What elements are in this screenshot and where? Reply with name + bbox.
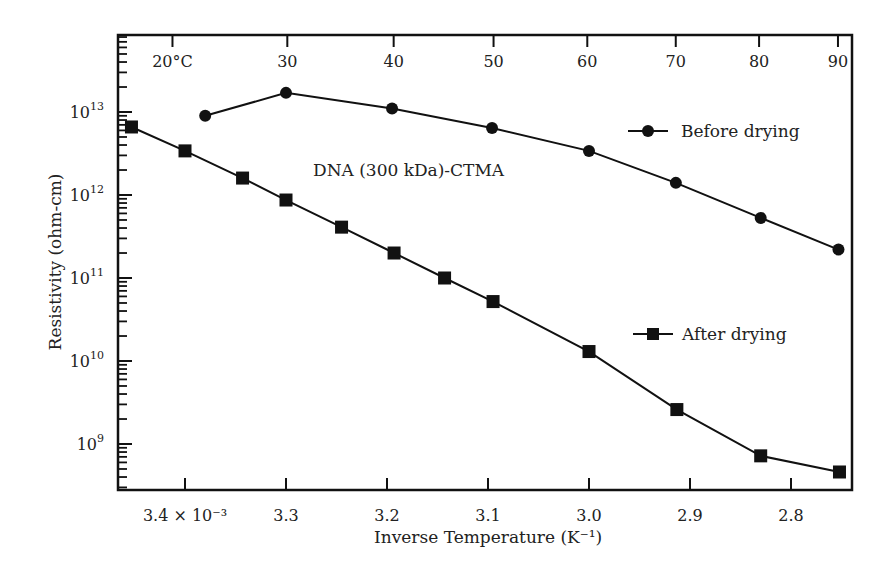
data-point-square bbox=[179, 144, 192, 157]
data-point-circle bbox=[832, 244, 844, 256]
legend-label-before: Before drying bbox=[681, 121, 800, 141]
data-point-circle bbox=[386, 103, 398, 115]
x-tick-label: 3.0 bbox=[576, 506, 601, 525]
data-point-circle bbox=[583, 145, 595, 157]
data-point-square bbox=[236, 172, 249, 185]
data-point-circle bbox=[670, 177, 682, 189]
y-tick-label: 1013 bbox=[70, 100, 104, 122]
data-point-square bbox=[438, 272, 451, 285]
x-tick-label: 3.1 bbox=[475, 506, 500, 525]
top-tick-label: 50 bbox=[483, 52, 503, 71]
y-tick-label: 1010 bbox=[70, 349, 104, 371]
x-tick-label: 2.8 bbox=[778, 506, 803, 525]
data-point-square bbox=[388, 247, 401, 260]
data-point-square bbox=[335, 221, 348, 234]
x-tick-label: 3.2 bbox=[374, 506, 399, 525]
data-point-square bbox=[280, 194, 293, 207]
plot-axes: 3.4 × 10⁻³3.33.23.13.02.92.820°C30405060… bbox=[70, 35, 852, 525]
top-tick-label: 90 bbox=[828, 52, 848, 71]
legend-label-after: After drying bbox=[681, 324, 787, 344]
x-axis-label: Inverse Temperature (K⁻¹) bbox=[374, 527, 602, 547]
x-tick-label: 2.9 bbox=[677, 506, 702, 525]
top-tick-label: 20°C bbox=[152, 52, 193, 71]
top-tick-label: 80 bbox=[749, 52, 769, 71]
data-point-circle bbox=[280, 87, 292, 99]
data-point-square bbox=[833, 465, 846, 478]
y-tick-label: 109 bbox=[77, 432, 104, 454]
data-point-square bbox=[754, 449, 767, 462]
chart-annotation: DNA (300 kDa)-CTMA bbox=[313, 160, 505, 180]
square-marker-icon bbox=[647, 328, 659, 340]
data-point-square bbox=[670, 403, 683, 416]
series-line bbox=[205, 93, 838, 250]
y-tick-label: 1012 bbox=[70, 183, 104, 205]
y-tick-label: 1011 bbox=[70, 266, 104, 288]
top-tick-label: 30 bbox=[277, 52, 297, 71]
legend-before-drying: Before drying bbox=[628, 121, 800, 141]
x-tick-label: 3.4 × 10⁻³ bbox=[143, 506, 227, 525]
top-tick-label: 70 bbox=[666, 52, 686, 71]
x-tick-label: 3.3 bbox=[273, 506, 298, 525]
top-tick-label: 60 bbox=[577, 52, 597, 71]
legend-after-drying: After drying bbox=[633, 324, 787, 344]
data-point-square bbox=[487, 295, 500, 308]
data-point-square bbox=[125, 120, 138, 133]
data-point-circle bbox=[755, 212, 767, 224]
data-point-circle bbox=[486, 122, 498, 134]
resistivity-chart: 3.4 × 10⁻³3.33.23.13.02.92.820°C30405060… bbox=[0, 0, 893, 570]
data-point-circle bbox=[199, 110, 211, 122]
data-point-square bbox=[583, 345, 596, 358]
circle-marker-icon bbox=[642, 125, 654, 137]
series-layer bbox=[125, 87, 846, 479]
plot-frame bbox=[118, 35, 852, 490]
top-tick-label: 40 bbox=[383, 52, 403, 71]
y-axis-label: Resistivity (ohm-cm) bbox=[45, 174, 65, 351]
